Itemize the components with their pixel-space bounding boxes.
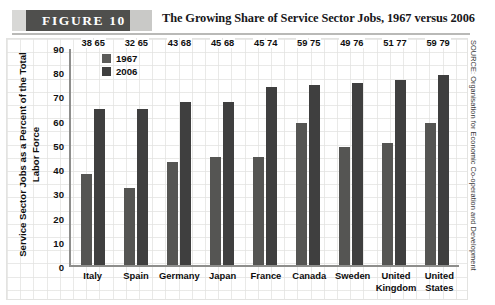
x-label-canada: Canada bbox=[288, 270, 331, 293]
y-axis-title: Service Sector Jobs as a Percent of the … bbox=[17, 45, 42, 265]
y-tick-60: 60 bbox=[53, 116, 64, 127]
x-label-spain: Spain bbox=[114, 270, 157, 293]
x-label-germany: Germany bbox=[158, 270, 201, 293]
bar-group: 4574 bbox=[243, 49, 286, 265]
bar-sweden-1967[interactable]: 49 bbox=[339, 147, 350, 265]
bar-wrapper: 45 bbox=[210, 49, 221, 265]
header-divider bbox=[12, 33, 470, 35]
bar-value-label: 45 bbox=[253, 38, 265, 48]
bar-value-label: 75 bbox=[309, 38, 321, 48]
bar-value-label: 43 bbox=[167, 38, 179, 48]
bar-group: 5975 bbox=[287, 49, 330, 265]
bar-wrapper: 49 bbox=[339, 49, 350, 265]
bar-wrapper: 51 bbox=[382, 49, 393, 265]
bar-wrapper: 75 bbox=[309, 49, 320, 265]
bar-groups: 386532654368456845745975497651775979 bbox=[71, 49, 459, 265]
bar-value-label: 51 bbox=[382, 38, 394, 48]
bar-wrapper: 65 bbox=[137, 49, 148, 265]
bar-france-2006[interactable]: 74 bbox=[266, 87, 277, 265]
figure-header: FIGURE 10 The Growing Share of Service S… bbox=[0, 10, 495, 36]
bar-united-kingdom-2006[interactable]: 77 bbox=[395, 80, 406, 265]
bar-united-kingdom-1967[interactable]: 51 bbox=[382, 143, 393, 265]
bar-wrapper: 38 bbox=[81, 49, 92, 265]
x-label-sweden: Sweden bbox=[331, 270, 374, 293]
bar-wrapper: 77 bbox=[395, 49, 406, 265]
bar-value-label: 59 bbox=[425, 38, 437, 48]
y-tick-20: 20 bbox=[53, 213, 64, 224]
bar-italy-2006[interactable]: 65 bbox=[94, 109, 105, 265]
y-tick-10: 10 bbox=[53, 237, 64, 248]
bar-spain-1967[interactable]: 32 bbox=[124, 188, 135, 265]
y-tick-90: 90 bbox=[53, 44, 64, 55]
bar-united-states-1967[interactable]: 59 bbox=[425, 123, 436, 265]
bar-spain-2006[interactable]: 65 bbox=[137, 109, 148, 265]
bar-group: 5979 bbox=[416, 49, 459, 265]
bar-group: 3265 bbox=[114, 49, 157, 265]
bar-japan-1967[interactable]: 45 bbox=[210, 157, 221, 265]
y-tick-0: 0 bbox=[59, 262, 64, 273]
x-label-italy: Italy bbox=[71, 270, 114, 293]
bar-value-label: 32 bbox=[124, 38, 136, 48]
bar-wrapper: 65 bbox=[94, 49, 105, 265]
bar-value-label: 68 bbox=[180, 38, 192, 48]
bar-value-label: 59 bbox=[296, 38, 308, 48]
chart-panel: Service Sector Jobs as a Percent of the … bbox=[6, 38, 468, 300]
bar-canada-2006[interactable]: 75 bbox=[309, 85, 320, 265]
bar-wrapper: 68 bbox=[223, 49, 234, 265]
plot-area: 9080706050403020100 38653265436845684574… bbox=[69, 49, 459, 267]
y-tick-80: 80 bbox=[53, 68, 64, 79]
figure-title: The Growing Share of Service Sector Jobs… bbox=[162, 11, 475, 26]
y-tick-30: 30 bbox=[53, 189, 64, 200]
x-label-japan: Japan bbox=[201, 270, 244, 293]
bar-group: 5177 bbox=[373, 49, 416, 265]
y-tick-70: 70 bbox=[53, 92, 64, 103]
bar-value-label: 74 bbox=[266, 38, 278, 48]
bar-italy-1967[interactable]: 38 bbox=[81, 174, 92, 265]
x-axis-line bbox=[69, 265, 459, 267]
figure-number-banner: FIGURE 10 bbox=[12, 10, 152, 31]
x-label-united-states: United States bbox=[418, 270, 461, 293]
bar-value-label: 38 bbox=[81, 38, 93, 48]
x-axis-labels: ItalySpainGermanyJapanFranceCanadaSweden… bbox=[71, 270, 461, 293]
bar-canada-1967[interactable]: 59 bbox=[296, 123, 307, 265]
bar-wrapper: 32 bbox=[124, 49, 135, 265]
bar-value-label: 68 bbox=[223, 38, 235, 48]
y-tick-40: 40 bbox=[53, 165, 64, 176]
bar-japan-2006[interactable]: 68 bbox=[223, 102, 234, 265]
bar-wrapper: 76 bbox=[352, 49, 363, 265]
x-label-united-kingdom: United Kingdom bbox=[374, 270, 417, 293]
bar-wrapper: 68 bbox=[180, 49, 191, 265]
bar-value-label: 65 bbox=[94, 38, 106, 48]
bar-value-label: 77 bbox=[395, 38, 407, 48]
bar-value-label: 45 bbox=[210, 38, 222, 48]
x-label-france: France bbox=[244, 270, 287, 293]
source-note: SOURCE: Organisation for Economic Co-ope… bbox=[469, 40, 478, 302]
bar-wrapper: 74 bbox=[266, 49, 277, 265]
bar-group: 3865 bbox=[71, 49, 114, 265]
bar-group: 4368 bbox=[157, 49, 200, 265]
bar-value-label: 49 bbox=[339, 38, 351, 48]
bar-wrapper: 45 bbox=[253, 49, 264, 265]
y-tick-50: 50 bbox=[53, 140, 64, 151]
bar-value-label: 76 bbox=[352, 38, 364, 48]
bar-united-states-2006[interactable]: 79 bbox=[438, 75, 449, 265]
bar-value-label: 65 bbox=[137, 38, 149, 48]
bar-value-label: 79 bbox=[438, 38, 450, 48]
bar-germany-1967[interactable]: 43 bbox=[167, 162, 178, 265]
bar-group: 4568 bbox=[200, 49, 243, 265]
figure-number-label: FIGURE 10 bbox=[38, 10, 130, 31]
bar-france-1967[interactable]: 45 bbox=[253, 157, 264, 265]
bar-germany-2006[interactable]: 68 bbox=[180, 102, 191, 265]
bar-sweden-2006[interactable]: 76 bbox=[352, 83, 363, 265]
bar-wrapper: 59 bbox=[425, 49, 436, 265]
bar-wrapper: 79 bbox=[438, 49, 449, 265]
bar-wrapper: 59 bbox=[296, 49, 307, 265]
bar-group: 4976 bbox=[330, 49, 373, 265]
bar-wrapper: 43 bbox=[167, 49, 178, 265]
